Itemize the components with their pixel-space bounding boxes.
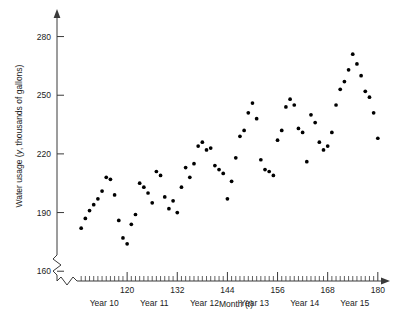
data-point — [175, 211, 179, 215]
data-point — [167, 207, 171, 211]
y-tick-label: 250 — [37, 90, 51, 100]
plot-canvas: 160190220250280 120132144156168180 Year … — [0, 0, 404, 322]
year-group-label: Year 10 — [90, 298, 119, 308]
y-axis-title: Water usage (y, thousands of gallons) — [14, 64, 24, 207]
data-point — [209, 146, 213, 150]
data-point — [351, 52, 355, 56]
data-point — [372, 111, 376, 115]
data-point — [180, 185, 184, 189]
data-point — [109, 177, 113, 181]
data-point — [276, 138, 280, 142]
year-group-label: Year 11 — [140, 298, 169, 308]
data-point — [79, 226, 83, 230]
data-point — [251, 101, 255, 105]
data-point — [338, 88, 342, 92]
data-point — [292, 103, 296, 107]
data-point — [88, 209, 92, 213]
data-point — [259, 158, 263, 162]
data-point — [234, 156, 238, 160]
data-point — [238, 134, 242, 138]
data-point — [297, 127, 301, 131]
x-tick-label-group: 120132144156168180 — [120, 285, 385, 295]
x-tick-label: 144 — [220, 285, 234, 295]
y-tick-label: 190 — [37, 208, 51, 218]
data-point — [217, 168, 221, 172]
data-point — [142, 185, 146, 189]
year-group-label: Year 14 — [290, 298, 319, 308]
data-point — [284, 105, 288, 109]
data-point — [163, 195, 167, 199]
data-point — [188, 176, 192, 180]
data-point — [192, 162, 196, 166]
data-point — [326, 144, 330, 148]
year-group-label: Year 12 — [190, 298, 219, 308]
data-point — [221, 172, 225, 176]
data-point — [125, 242, 129, 246]
y-tick-group: 160190220250280 — [37, 32, 64, 277]
y-axis-group — [53, 9, 61, 281]
data-point — [347, 68, 351, 72]
data-point — [280, 129, 284, 133]
data-point — [368, 95, 372, 99]
data-point — [272, 174, 276, 178]
data-point — [355, 62, 359, 66]
data-point — [129, 222, 133, 226]
data-point — [242, 129, 246, 133]
data-point — [150, 201, 154, 205]
x-tick-label: 132 — [170, 285, 184, 295]
data-point — [363, 89, 367, 93]
data-point — [121, 236, 125, 240]
data-point — [226, 197, 230, 201]
data-point — [376, 136, 380, 140]
y-tick-label: 220 — [37, 149, 51, 159]
y-axis-break-icon — [53, 255, 61, 275]
data-point — [359, 74, 363, 78]
data-point — [205, 148, 209, 152]
data-point — [246, 111, 250, 115]
data-point — [263, 168, 267, 172]
data-point — [196, 144, 200, 148]
x-tick-label: 180 — [371, 285, 385, 295]
x-tick-label: 168 — [321, 285, 335, 295]
data-point — [184, 166, 188, 170]
data-point — [84, 217, 88, 221]
x-axis-break-icon — [57, 277, 77, 285]
data-point — [267, 170, 271, 174]
data-point — [134, 213, 138, 217]
data-point — [155, 170, 159, 174]
data-point — [104, 176, 108, 180]
data-point — [96, 197, 100, 201]
data-point — [138, 181, 142, 185]
y-axis-arrowhead — [54, 9, 61, 18]
data-point-layer — [79, 52, 379, 245]
data-point — [230, 179, 234, 183]
x-axis-arrowhead — [381, 278, 390, 285]
data-point — [146, 191, 150, 195]
data-point — [343, 80, 347, 84]
x-tick-label: 156 — [270, 285, 284, 295]
x-axis-title: Month (t) — [219, 299, 253, 309]
data-point — [159, 174, 163, 178]
data-point — [322, 148, 326, 152]
data-point — [305, 160, 309, 164]
year-group-label: Year 15 — [340, 298, 369, 308]
data-point — [171, 199, 175, 203]
x-tick-label: 120 — [120, 285, 134, 295]
data-point — [330, 131, 334, 135]
y-tick-label: 160 — [37, 266, 51, 276]
data-point — [288, 97, 292, 101]
data-point — [113, 193, 117, 197]
data-point — [92, 203, 96, 207]
data-point — [317, 140, 321, 144]
data-point — [334, 103, 338, 107]
data-point — [100, 189, 104, 193]
data-point — [213, 164, 217, 168]
y-tick-label: 280 — [37, 32, 51, 42]
data-point — [200, 140, 204, 144]
x-tick-group — [81, 272, 378, 281]
data-point — [309, 113, 313, 117]
data-point — [255, 117, 259, 121]
data-point — [117, 219, 121, 223]
scatter-plot-figure: 160190220250280 120132144156168180 Year … — [0, 0, 404, 322]
data-point — [301, 131, 305, 135]
